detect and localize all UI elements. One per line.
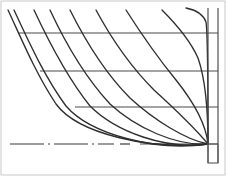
station-curve-4 <box>50 10 208 144</box>
stem-box <box>208 144 218 163</box>
station-curve-8 <box>162 10 208 144</box>
drawing-border <box>1 1 225 175</box>
station-curve-group <box>8 8 208 146</box>
hull-lines-svg <box>0 0 226 176</box>
waterline-group <box>18 33 218 144</box>
vertical-reference-group <box>208 8 218 163</box>
hull-lines-plan-canvas <box>0 0 226 176</box>
